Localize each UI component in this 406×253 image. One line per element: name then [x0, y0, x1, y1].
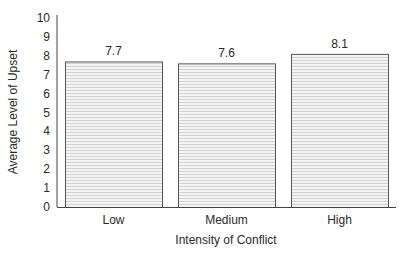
- bar-medium: [179, 64, 276, 208]
- bars: 7.77.68.1: [66, 37, 389, 208]
- x-axis-title: Intensity of Conflict: [175, 233, 277, 247]
- bar-value-label: 7.6: [218, 46, 235, 60]
- bar-chart: 012345678910 7.77.68.1 LowMediumHigh Ave…: [0, 0, 406, 253]
- y-tick-label: 3: [43, 143, 50, 157]
- y-tick-label: 7: [43, 68, 50, 82]
- y-tick-label: 0: [43, 200, 50, 214]
- bar-value-label: 8.1: [331, 37, 348, 51]
- y-tick-label: 1: [43, 181, 50, 195]
- chart-canvas: 012345678910 7.77.68.1 LowMediumHigh Ave…: [0, 0, 406, 253]
- y-axis-title: Average Level of Upset: [6, 49, 20, 174]
- y-tick-label: 6: [43, 87, 50, 101]
- x-tick-label: High: [327, 213, 352, 227]
- y-tick-label: 2: [43, 162, 50, 176]
- y-tick-label: 9: [43, 30, 50, 44]
- x-axis: LowMediumHigh: [57, 208, 396, 228]
- x-tick-label: Medium: [205, 213, 248, 227]
- y-tick-label: 5: [43, 106, 50, 120]
- y-tick-label: 10: [37, 11, 51, 25]
- y-axis: 012345678910: [37, 11, 57, 214]
- bar-high: [292, 54, 389, 207]
- bar-value-label: 7.7: [105, 44, 122, 58]
- x-tick-label: Low: [102, 213, 124, 227]
- y-tick-label: 4: [43, 124, 50, 138]
- y-tick-label: 8: [43, 49, 50, 63]
- bar-low: [66, 62, 163, 208]
